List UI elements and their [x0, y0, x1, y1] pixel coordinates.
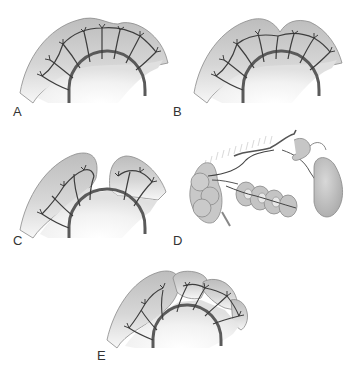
panel-label-d: D: [173, 234, 182, 247]
pedicle-coil-diagram: [186, 130, 346, 230]
panel-b: [192, 8, 342, 103]
panel-a: [18, 8, 168, 103]
notched-arcade-diagram: [192, 8, 342, 103]
panel-label-b: B: [173, 105, 182, 118]
intact-arcade-diagram: [18, 8, 168, 103]
panel-c: [18, 148, 168, 238]
multi-segment-arcade-diagram: [105, 268, 250, 348]
divided-arcade-diagram: [18, 148, 168, 238]
panel-label-c: C: [13, 234, 22, 247]
panel-label-a: A: [13, 105, 22, 118]
panel-e: [105, 268, 250, 348]
panel-d: [186, 130, 346, 230]
panel-label-e: E: [97, 349, 106, 362]
